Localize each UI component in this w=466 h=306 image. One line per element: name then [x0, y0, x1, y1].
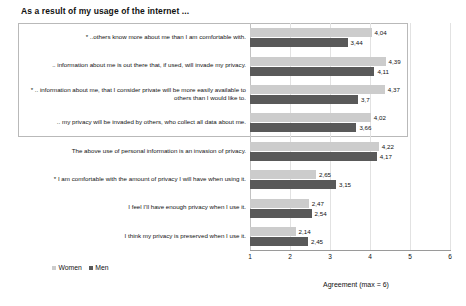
bar-value-label: 2,54	[315, 209, 327, 218]
chart-row: I feel I'll have enough privacy when I u…	[0, 193, 466, 221]
bar-value-label: 3,7	[361, 95, 370, 104]
bar-women[interactable]	[250, 113, 371, 122]
bar-women[interactable]	[250, 170, 316, 179]
chart-row: * I am comfortable with the amount of pr…	[0, 165, 466, 193]
legend-swatch-men-icon	[89, 266, 93, 270]
bar-value-label: 4,39	[389, 57, 401, 66]
bar-men[interactable]	[250, 209, 312, 218]
category-label: .. information about me is out there tha…	[20, 51, 246, 79]
bar-men[interactable]	[250, 123, 356, 132]
bar-women[interactable]	[250, 28, 372, 37]
x-tick-1: 1	[248, 253, 252, 260]
bar-value-label: 3,15	[339, 180, 351, 189]
bar-value-label: 4,22	[382, 142, 394, 151]
bar-women[interactable]	[250, 199, 309, 208]
bar-value-label: 2,45	[311, 237, 323, 246]
bar-value-label: 2,65	[319, 170, 331, 179]
chart-legend: Women Men	[52, 264, 109, 271]
page-title: As a result of my usage of the internet …	[21, 6, 189, 16]
category-label: .. my privacy will be invaded by others,…	[20, 108, 246, 136]
chart-row: .. information about me is out there tha…	[0, 51, 466, 79]
x-tick-4: 4	[368, 253, 372, 260]
bar-value-label: 2,14	[299, 227, 311, 236]
bar-men[interactable]	[250, 38, 348, 47]
bar-women[interactable]	[250, 57, 386, 66]
x-tick-5: 5	[408, 253, 412, 260]
chart-row: * ..others know more about me than I am …	[0, 23, 466, 51]
legend-item-men[interactable]: Men	[89, 264, 109, 271]
bar-men[interactable]	[250, 95, 358, 104]
bar-women[interactable]	[250, 85, 385, 94]
legend-item-women[interactable]: Women	[52, 264, 82, 271]
category-label: * ..others know more about me than I am …	[20, 23, 246, 51]
category-label: * .. information about me, that I consid…	[20, 80, 246, 108]
category-label: I feel I'll have enough privacy when I u…	[20, 193, 246, 221]
bar-value-label: 3,66	[359, 123, 371, 132]
bar-value-label: 4,02	[374, 113, 386, 122]
x-axis-label: Agreement (max = 6)	[323, 281, 389, 288]
chart-row: I think my privacy is preserved when I u…	[0, 222, 466, 250]
bar-men[interactable]	[250, 237, 308, 246]
bar-value-label: 4,37	[388, 85, 400, 94]
bar-value-label: 4,04	[375, 28, 387, 37]
bar-men[interactable]	[250, 67, 374, 76]
x-tick-6: 6	[448, 253, 452, 260]
bar-value-label: 3,44	[351, 38, 363, 47]
bar-women[interactable]	[250, 227, 296, 236]
bar-women[interactable]	[250, 142, 379, 151]
chart-row: .. my privacy will be invaded by others,…	[0, 108, 466, 136]
legend-label-women: Women	[59, 264, 82, 271]
bar-value-label: 2,47	[312, 199, 324, 208]
bar-value-label: 4,17	[380, 152, 392, 161]
category-label: * I am comfortable with the amount of pr…	[20, 165, 246, 193]
legend-label-men: Men	[95, 264, 108, 271]
bar-value-label: 4,11	[377, 67, 389, 76]
x-tick-3: 3	[328, 253, 332, 260]
chart-row: The above use of personal information is…	[0, 137, 466, 165]
chart-row: * .. information about me, that I consid…	[0, 80, 466, 108]
x-tick-2: 2	[288, 253, 292, 260]
bar-men[interactable]	[250, 180, 336, 189]
category-label: The above use of personal information is…	[20, 137, 246, 165]
legend-swatch-women-icon	[52, 266, 56, 270]
bar-men[interactable]	[250, 152, 377, 161]
category-label: I think my privacy is preserved when I u…	[20, 222, 246, 250]
